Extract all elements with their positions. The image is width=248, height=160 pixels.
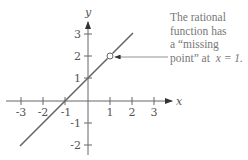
x-tick-label: 3 bbox=[151, 106, 158, 119]
x-tick-label: -3 bbox=[16, 106, 27, 119]
y-tick-label: -1 bbox=[70, 117, 81, 130]
function-line-lower bbox=[20, 59, 108, 147]
annotation-math: x = 1. bbox=[216, 52, 243, 64]
y-axis-label: y bbox=[84, 6, 92, 19]
x-tick-label: 1 bbox=[107, 106, 114, 119]
annotation-line: function has bbox=[170, 25, 248, 39]
annotation-text-part: point” at bbox=[170, 52, 210, 64]
y-tick-label: 3 bbox=[74, 28, 81, 41]
y-tick-label: -2 bbox=[70, 139, 81, 152]
x-tick-label: 2 bbox=[129, 106, 136, 119]
function-line-upper bbox=[113, 33, 134, 54]
x-tick-label: -2 bbox=[38, 106, 49, 119]
y-tick-label: 2 bbox=[74, 50, 81, 63]
annotation-line: a “missing bbox=[170, 38, 248, 52]
missing-point-hole bbox=[107, 53, 113, 59]
annotation-line: The rational bbox=[170, 11, 248, 25]
x-axis-label: x bbox=[176, 95, 183, 108]
y-tick-label: 1 bbox=[74, 72, 81, 85]
annotation-text: The rational function has a “missing poi… bbox=[170, 11, 248, 65]
annotation-line: point” at x = 1. bbox=[170, 52, 248, 66]
